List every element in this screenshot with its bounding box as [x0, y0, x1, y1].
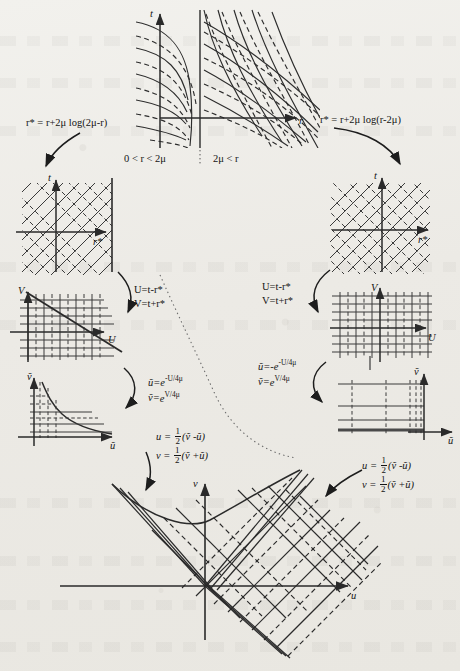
right-tilde-grid: [338, 380, 424, 434]
transform-right-uv-line2: V=t+r*: [262, 294, 293, 308]
arrow-right-kruskal: [326, 470, 362, 496]
left-rstar-hatching: [14, 176, 112, 292]
arrow-right-uv: [314, 270, 330, 312]
transform-right-uv-line1: U=t-r*: [262, 280, 293, 294]
figure-page: t r 0 < r < 2μ 2μ < r r* = r+2μ log(2μ-r…: [0, 0, 460, 671]
transform-left-exp-line2: ṽ=eV/4μ: [148, 390, 183, 406]
arrow-left-uv: [118, 272, 131, 312]
kruskal-diagram: [112, 470, 382, 658]
top-panel-curves: [136, 22, 196, 148]
figure-canvas: [0, 0, 460, 671]
exp-exponent: V/4μ: [164, 390, 179, 399]
transform-right-final: u = 1 2 (ṽ -ũ) v = 1 2 (ṽ +ũ): [362, 456, 414, 494]
right-tilde-axis-y-label: ṽ: [414, 366, 419, 377]
left-uv-grid: [20, 294, 114, 360]
u-tilde-symbol: ũ=: [148, 376, 160, 390]
left-rstar-axis-x-label: r*: [93, 236, 102, 247]
transform-right-final-line1: u = 1 2 (ṽ -ũ): [362, 456, 414, 475]
left-tilde-axis-x-label: ũ: [110, 440, 115, 451]
exp-exponent: -U/4μ: [165, 374, 183, 383]
one-half-fraction: 1 2: [380, 475, 387, 494]
uv-expression: (ṽ +ũ): [388, 479, 415, 490]
right-tilde-axis-x-label: ũ: [448, 435, 453, 446]
transform-right-final-line2: v = 1 2 (ṽ +ũ): [362, 475, 414, 494]
transform-left-final: u = 1 2 (ṽ -ũ) v = 1 2 (ṽ +ũ): [156, 427, 208, 465]
v-equals: v =: [156, 450, 170, 461]
uv-expression: (ṽ +ũ): [182, 450, 209, 461]
transform-right-exp: ũ=-e-U/4μ ṽ=eV/4μ: [258, 358, 296, 389]
left-tilde-curve: [30, 382, 112, 438]
top-panel-right-curves: [204, 10, 320, 148]
u-equals: u =: [156, 431, 171, 442]
transform-left-uv-line2: V=t+r*: [134, 297, 165, 311]
left-rstar-axes: [16, 180, 106, 272]
right-uv-axis-y-label: V: [371, 282, 377, 293]
top-panel-axes: [160, 14, 296, 148]
arrow-left-rstar: [46, 133, 80, 166]
right-uv-grid: [332, 292, 432, 358]
transform-left-exp-line1: ũ=e-U/4μ: [148, 374, 183, 390]
right-rstar-hatching: [326, 174, 434, 274]
one-half-fraction: 1 2: [381, 456, 388, 475]
arrow-right-rstar: [334, 128, 400, 164]
left-rstar-axis-y-label: t: [48, 172, 51, 183]
v-tilde-symbol: ṽ=: [258, 375, 270, 389]
uv-expression: (ṽ -ũ): [388, 460, 411, 471]
u-equals: u =: [362, 460, 377, 471]
exp-exponent: V/4μ: [274, 374, 289, 383]
region-left-label: 0 < r < 2μ: [124, 153, 166, 164]
transform-right-rstar: r* = r+2μ log(r-2μ): [320, 113, 401, 127]
right-rstar-axis-y-label: t: [374, 170, 377, 181]
exp-exponent: -U/4μ: [279, 358, 297, 367]
arrow-left-tilde: [124, 368, 135, 408]
v-equals: v =: [362, 479, 376, 490]
transform-right-uv: U=t-r* V=t+r*: [262, 280, 293, 308]
left-uv-axis-y-label: V: [18, 285, 24, 296]
v-tilde-symbol: ṽ=: [148, 391, 160, 405]
right-uv-axis-x-label: U: [428, 332, 436, 343]
uv-expression: (ṽ -ũ): [182, 431, 205, 442]
one-half-fraction: 1 2: [175, 427, 182, 446]
arrow-left-kruskal: [146, 452, 151, 490]
transform-left-uv-line1: U=t-r*: [134, 283, 165, 297]
region-right-label: 2μ < r: [213, 153, 239, 164]
transform-left-uv: U=t-r* V=t+r*: [134, 283, 165, 311]
left-uv-axis-x-label: U: [108, 334, 116, 345]
one-half-fraction: 1 2: [174, 446, 181, 465]
exp-base: -e: [270, 361, 278, 372]
transform-left-exp: ũ=e-U/4μ ṽ=eV/4μ: [148, 374, 183, 405]
transform-right-exp-line1: ũ=-e-U/4μ: [258, 358, 296, 374]
kruskal-axis-x-label: u: [351, 590, 356, 601]
right-rstar-axis-x-label: r*: [418, 234, 427, 245]
arrow-right-tilde: [313, 362, 326, 402]
top-axis-y-label: t: [150, 8, 153, 19]
u-tilde-symbol: ũ=: [258, 360, 270, 374]
top-axis-x-label: r: [299, 115, 303, 126]
transform-right-exp-line2: ṽ=eV/4μ: [258, 374, 296, 390]
left-tilde-axis-y-label: ṽ: [27, 371, 32, 382]
transform-left-final-line2: v = 1 2 (ṽ +ũ): [156, 446, 208, 465]
transform-left-final-line1: u = 1 2 (ṽ -ũ): [156, 427, 208, 446]
kruskal-axis-y-label: v: [193, 478, 198, 489]
left-uv-axes: [10, 292, 104, 362]
transform-left-rstar: r* = r+2μ log(2μ-r): [26, 116, 107, 130]
